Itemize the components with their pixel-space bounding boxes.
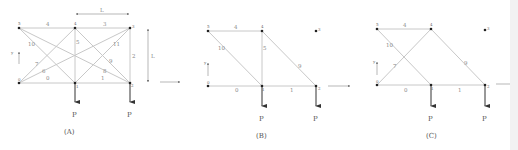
y-axis-label: y xyxy=(10,50,14,55)
load-label: P xyxy=(127,111,132,119)
node xyxy=(315,30,318,33)
member-label: 2 xyxy=(132,53,136,59)
panel-caption: (C) xyxy=(426,132,437,140)
member-label: 10 xyxy=(386,42,393,48)
member-label: 1 xyxy=(101,75,105,81)
member-label: 7 xyxy=(35,61,39,67)
panel-b: 0 1 4 5 9 10 0 1 2 3 4 5 y P P (B) xyxy=(203,24,350,140)
member-label: 7 xyxy=(393,63,397,69)
member-b-10 xyxy=(208,31,262,86)
truss-diagram: 0 1 2 3 4 5 6 7 8 9 10 11 0 1 2 3 4 5 y … xyxy=(0,0,518,150)
node xyxy=(315,85,318,88)
member-label: 6 xyxy=(42,68,46,74)
load-label: P xyxy=(482,115,487,123)
member-label: 4 xyxy=(46,21,50,27)
node xyxy=(376,28,379,31)
node-label: 3 xyxy=(487,26,490,31)
member-label: 4 xyxy=(403,22,407,28)
panel-a: 0 1 2 3 4 5 6 7 8 9 10 11 0 1 2 3 4 5 y … xyxy=(10,7,180,136)
node xyxy=(18,82,21,85)
y-axis-label: y xyxy=(203,60,207,65)
node-label: 2 xyxy=(487,84,490,89)
node-label: 5 xyxy=(376,22,379,27)
node-label: 2 xyxy=(318,86,321,91)
member-c-9 xyxy=(431,29,485,85)
member-b-9 xyxy=(262,31,316,86)
member-label: 0 xyxy=(404,87,408,93)
node-label: 0 xyxy=(207,80,210,85)
panel-caption: (B) xyxy=(256,132,267,140)
member-label: 9 xyxy=(464,60,468,66)
load-label: P xyxy=(428,115,433,123)
node xyxy=(261,30,264,33)
member-label: 11 xyxy=(113,41,120,47)
member-label: 1 xyxy=(458,87,462,93)
y-axis-label: y xyxy=(372,59,376,64)
page-edge xyxy=(510,0,518,150)
node xyxy=(74,27,77,30)
member-label: 9 xyxy=(109,58,113,64)
node xyxy=(484,84,487,87)
load-label: P xyxy=(72,111,77,119)
node xyxy=(129,27,132,30)
node-label: 4 xyxy=(261,24,264,29)
member-label: 10 xyxy=(218,45,225,51)
load-label: P xyxy=(259,115,264,123)
node-label: 3 xyxy=(318,27,321,32)
member-label: 5 xyxy=(263,45,267,51)
node xyxy=(484,29,487,32)
dimension-label-vertical: L xyxy=(151,53,155,59)
member-label: 5 xyxy=(76,39,80,45)
node-label: 4 xyxy=(74,21,77,26)
node-label: 1 xyxy=(76,84,79,89)
member-label: 4 xyxy=(234,24,238,30)
node xyxy=(207,85,210,88)
panel-c: 0 1 4 7 9 10 0 1 2 3 4 5 y P P (C) xyxy=(372,22,514,140)
node xyxy=(207,30,210,33)
load-label: P xyxy=(313,115,318,123)
node-label: 2 xyxy=(131,83,134,88)
member-label: 10 xyxy=(28,41,35,47)
panel-caption: (A) xyxy=(64,128,75,136)
member-label: 3 xyxy=(103,21,107,27)
node-label: 5 xyxy=(207,24,210,29)
member-label: 1 xyxy=(290,87,294,93)
member-label: 0 xyxy=(235,87,239,93)
dimension-label-horizontal: L xyxy=(100,7,104,13)
node xyxy=(376,84,379,87)
member-label: 9 xyxy=(298,63,302,69)
node xyxy=(430,28,433,31)
node-label: 3 xyxy=(132,24,135,29)
node-label: 4 xyxy=(430,22,433,27)
node xyxy=(18,27,21,30)
member-label: 0 xyxy=(46,75,50,81)
node-label: 5 xyxy=(18,21,21,26)
member-label: 8 xyxy=(103,68,107,74)
